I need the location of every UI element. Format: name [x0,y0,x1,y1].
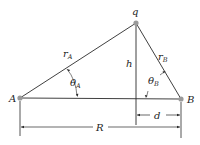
label-R: R [95,122,104,133]
label-thetaA-sub: A [75,82,81,90]
label-A: A [8,93,16,104]
point-A-dot [17,95,22,100]
label-thetaB: θB [148,75,159,88]
label-rA: rA [63,48,73,61]
charge-q-dot [133,20,138,25]
label-thetaA: θA [70,77,81,90]
label-rB-sub: B [162,56,168,64]
label-h: h [126,58,132,69]
label-rA-sub: A [67,53,73,61]
label-B: B [186,94,194,105]
point-B-dot [178,96,183,101]
geometry-diagram: d R A B q rA rB h θA θB [0,0,200,145]
label-d: d [154,110,160,121]
arrowhead-thetaA-top [67,69,70,72]
label-thetaB-sub: B [153,80,159,88]
arrowhead-thetaA-bottom [76,94,78,97]
baseline-AB [20,98,181,99]
label-q: q [132,6,138,17]
